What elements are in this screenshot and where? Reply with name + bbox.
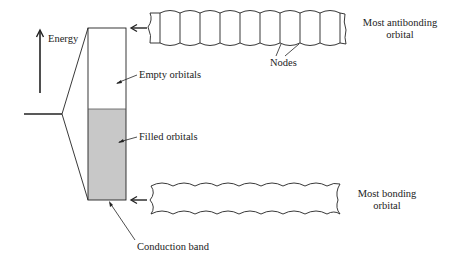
antibonding-arrow-icon [131,25,147,32]
bonding-orbital-label: Most bonding orbital [350,188,424,212]
bonding-orbital-wave [150,183,340,214]
bonding-label-line1: Most bonding [350,188,424,200]
bonding-arrow-icon [131,197,147,204]
node-pointers [276,44,299,56]
nodes-label: Nodes [270,57,297,69]
bonding-label-line2: orbital [350,200,424,212]
filled-region [88,109,126,200]
empty-orbitals-label: Empty orbitals [139,69,201,81]
energy-band [88,28,126,200]
antibonding-orbital-label: Most antibonding orbital [352,17,448,41]
antibonding-label-line1: Most antibonding [352,17,448,29]
energy-axis-label: Energy [48,33,78,45]
filled-orbitals-label: Filled orbitals [139,131,198,143]
energy-arrow-icon [37,30,44,93]
conduction-band-label: Conduction band [137,241,209,253]
antibonding-label-line2: orbital [352,29,448,41]
antibonding-orbital-wave [148,11,346,46]
atomic-level-fan [24,28,88,200]
